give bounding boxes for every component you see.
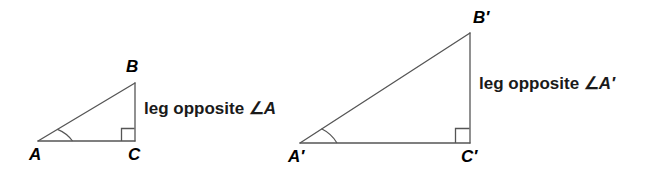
caption-prefix-text-prime: leg opposite [479, 74, 584, 93]
segment-ab [38, 83, 135, 141]
vertex-label-c-prime: C′ [461, 148, 477, 165]
angle-symbol-icon: ∠ [249, 99, 264, 118]
vertex-label-a-prime: A′ [288, 148, 304, 165]
right-angle-mark-c-prime [456, 129, 470, 144]
triangle-abc-shape [38, 83, 135, 141]
geometry-figure: A B C leg opposite ∠A A′ B′ C′ leg oppos… [0, 0, 657, 183]
vertex-label-c: C [128, 146, 140, 163]
vertex-label-b-prime: B′ [473, 9, 489, 26]
caption-prefix-text: leg opposite [144, 99, 249, 118]
triangle-a-prime-b-prime-c-prime-shape [300, 33, 470, 143]
caption-leg-opposite-angle-a-prime: leg opposite ∠A′ [479, 75, 615, 92]
right-angle-mark-c [122, 129, 135, 142]
angle-arc-a-prime [322, 129, 338, 143]
segment-a-prime-b-prime [300, 33, 470, 143]
caption-leg-opposite-angle-a: leg opposite ∠A [144, 100, 276, 117]
vertex-label-b: B [126, 58, 138, 75]
angle-arc-a [58, 129, 73, 141]
caption-angle-name-prime: A′ [599, 74, 615, 93]
angle-symbol-icon-prime: ∠ [584, 74, 599, 93]
vertex-label-a: A [29, 146, 41, 163]
caption-angle-name: A [264, 99, 276, 118]
